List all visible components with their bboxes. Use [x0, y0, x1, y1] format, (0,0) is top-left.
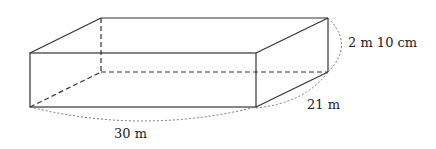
edge-top-left-depth: [30, 18, 101, 53]
length-label: 30 m: [114, 126, 147, 141]
dimension-arcs: [30, 18, 342, 121]
prism-diagram: 30 m 21 m 2 m 10 cm: [0, 0, 436, 149]
edge-top-right-depth: [256, 18, 328, 53]
visible-edges: [30, 18, 328, 107]
length-arc: [30, 107, 256, 121]
width-label: 21 m: [307, 97, 340, 112]
front-face: [30, 53, 256, 107]
height-label: 2 m 10 cm: [348, 35, 417, 50]
hidden-edge-depth: [30, 72, 101, 107]
height-arc: [328, 18, 342, 72]
